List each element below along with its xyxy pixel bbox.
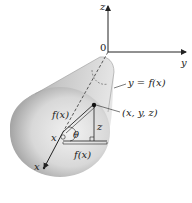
surface-of-revolution-diagram: z y 0 y = f(x) (x, y, z) f(x) x θ z f(x)… (0, 0, 192, 203)
x-axis-label: x (34, 162, 40, 172)
point-xyz (92, 103, 96, 107)
x-center-label: x (51, 133, 57, 143)
front-disc (10, 87, 110, 177)
curve-leader (114, 84, 126, 88)
theta-label: θ (73, 130, 79, 140)
y-axis-label: y (181, 58, 187, 68)
z-height-label: z (97, 122, 102, 132)
diagram-svg (0, 0, 192, 203)
x-axis-end (43, 167, 45, 169)
point-label: (x, y, z) (122, 108, 158, 118)
curve-label: y = f(x) (128, 78, 166, 88)
z-axis-label: z (100, 2, 105, 12)
origin-label: 0 (100, 43, 106, 53)
slant-radius-label: f(x) (52, 110, 69, 120)
horizontal-radius-label: f(x) (74, 150, 91, 160)
